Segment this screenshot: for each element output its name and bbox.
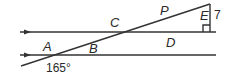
parallel-arrow-icon [24,53,31,58]
angle-label: 165° [46,61,71,75]
side-length-label: 7 [214,8,221,22]
label-d: D [166,35,175,50]
parallel-arrow-icon [24,30,31,35]
label-b: B [89,41,98,56]
right-angle-marker [203,25,210,32]
geometry-diagram: A B C D E P 7 165° [0,0,232,82]
label-c: C [110,15,120,30]
label-e: E [200,8,209,23]
label-p: P [160,3,169,18]
transversal-line [21,4,210,66]
label-a: A [42,39,52,54]
